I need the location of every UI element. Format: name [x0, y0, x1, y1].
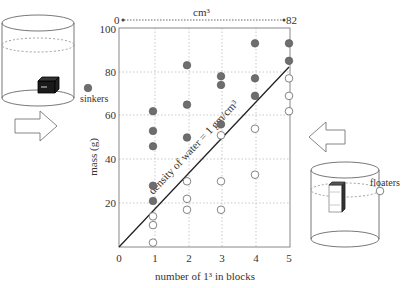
sinking-block-beaker — [2, 15, 74, 106]
floaters-data-point — [285, 75, 293, 83]
sinkers-data-point — [183, 101, 191, 109]
x-tick-3: 3 — [219, 252, 225, 264]
y-tick-100: 100 — [100, 23, 117, 35]
floating-block-icon — [329, 182, 345, 212]
water-density-line: density of water = 1 gm/cm³ — [119, 67, 289, 247]
floaters-data-point — [217, 206, 225, 214]
x-axis: 0 1 2 3 4 5 number of 1³ in blocks — [116, 252, 292, 282]
y-tick-80: 80 — [105, 66, 117, 78]
floaters-legend: floaters — [370, 177, 400, 195]
arrow-left-icon — [309, 122, 345, 152]
x-axis-label: number of 1³ in blocks — [155, 270, 255, 282]
sinkers-legend: sinkers — [80, 84, 108, 104]
top-axis-end: 82 — [286, 14, 297, 26]
sinkers-data-point — [149, 182, 157, 190]
floaters-data-point — [149, 221, 157, 229]
sinkers-data-point — [183, 134, 191, 142]
floating-block-beaker — [311, 162, 379, 247]
sinkers-data-point — [251, 40, 259, 48]
sinkers-data-point — [149, 142, 157, 150]
floaters-data-point — [285, 92, 293, 100]
floaters-data-point — [251, 171, 259, 179]
sinkers-data-point — [149, 127, 157, 135]
floaters-data-point — [217, 178, 225, 186]
sinkers-data-point — [149, 107, 157, 115]
y-tick-40: 40 — [105, 153, 117, 165]
water-density-label: density of water = 1 gm/cm³ — [146, 97, 241, 196]
floaters-data-point — [149, 213, 157, 221]
sinkers-data-point — [183, 61, 191, 69]
sinkers-label: sinkers — [80, 93, 108, 104]
top-volume-axis: 0 82 cm³ — [114, 6, 297, 26]
y-axis-label: mass (g) — [87, 138, 100, 176]
sinkers-data-point — [217, 121, 225, 129]
floaters-data-point — [183, 178, 191, 186]
floaters-label: floaters — [370, 177, 400, 188]
top-axis-label: cm³ — [193, 6, 210, 18]
density-chart-figure: 0 82 cm³ 100 80 60 40 20 mass (g) 0 1 2 … — [0, 0, 411, 288]
arrow-right-icon — [15, 111, 57, 141]
x-tick-2: 2 — [186, 252, 192, 264]
y-tick-20: 20 — [105, 197, 117, 209]
sinking-block-icon — [38, 77, 59, 93]
floaters-data-point — [217, 132, 225, 140]
x-tick-4: 4 — [253, 252, 259, 264]
sinkers-data-point — [251, 92, 259, 100]
floaters-data-point — [285, 107, 293, 115]
sinkers-data-point — [217, 81, 225, 89]
floaters-data-point — [183, 195, 191, 203]
sinkers-data-point — [285, 57, 293, 65]
floaters-data-point — [251, 125, 259, 133]
floaters-data-point — [183, 206, 191, 214]
x-tick-5: 5 — [286, 252, 292, 264]
y-axis: 100 80 60 40 20 mass (g) — [87, 23, 117, 209]
sinkers-data-point — [217, 72, 225, 80]
sinkers-data-point — [285, 40, 293, 48]
sinkers-data-point — [251, 75, 259, 83]
floaters-data-point — [149, 239, 157, 247]
sinkers-data-point — [149, 197, 157, 205]
x-tick-0: 0 — [116, 252, 122, 264]
x-tick-1: 1 — [152, 252, 158, 264]
y-tick-60: 60 — [105, 109, 117, 121]
